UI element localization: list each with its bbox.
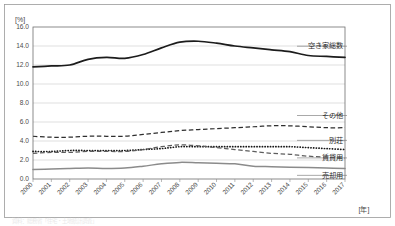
x-tick-label: 2006 — [129, 180, 144, 195]
x-axis-tick-labels: 2000200120022003200420052006200720082009… — [19, 179, 346, 196]
x-tick-label: 2013 — [257, 180, 272, 195]
chart-container: [%] 0.02.04.06.08.010.012.014.016.0 2000… — [0, 0, 395, 226]
x-tick-label: 2008 — [166, 180, 181, 195]
y-tick-label: 12.0 — [16, 61, 29, 68]
x-tick-label: 2015 — [294, 180, 309, 195]
y-axis-tick-labels: 0.02.04.06.08.010.012.014.016.0 — [16, 23, 29, 182]
y-tick-label: 8.0 — [20, 99, 29, 106]
x-tick-label: 2007 — [147, 180, 162, 195]
x-tick-label: 2012 — [239, 180, 254, 195]
series-line — [33, 41, 345, 67]
series-legend-label: その他 — [322, 111, 343, 120]
series-line — [33, 162, 345, 169]
x-tick-label: 2014 — [276, 180, 291, 195]
x-tick-label: 2004 — [92, 180, 107, 195]
vacant-house-rate-line-chart: [%] 0.02.04.06.08.010.012.014.016.0 2000… — [0, 0, 395, 226]
x-tick-label: 2011 — [221, 180, 236, 195]
y-tick-label: 2.0 — [20, 156, 29, 163]
x-tick-label: 2000 — [19, 180, 34, 195]
source-footnote: 資料：総務省「住宅・土地統計調査」 — [12, 217, 97, 225]
gridlines — [33, 46, 345, 160]
series-legend-label: 別荘 — [329, 136, 343, 145]
x-axis-unit-label: [年] — [359, 205, 370, 214]
x-tick-label: 2003 — [74, 180, 89, 195]
y-tick-label: 6.0 — [20, 118, 29, 125]
x-tick-label: 2010 — [202, 180, 217, 195]
series-line — [33, 147, 345, 152]
series-legend-label: 空き家総数 — [308, 41, 343, 50]
series-line — [33, 126, 345, 138]
series-legend-label: 賃貸用 — [322, 153, 343, 162]
x-tick-label: 2009 — [184, 180, 199, 195]
x-tick-label: 2005 — [110, 180, 125, 195]
x-tick-label: 2016 — [312, 180, 327, 195]
x-tick-label: 2001 — [37, 180, 52, 195]
y-tick-label: 14.0 — [16, 42, 29, 49]
y-tick-label: 16.0 — [16, 23, 29, 30]
series-legend-label: 売却用 — [322, 171, 343, 180]
x-tick-label: 2017 — [331, 180, 346, 195]
y-tick-label: 4.0 — [20, 137, 29, 144]
y-tick-label: 10.0 — [16, 80, 29, 87]
x-tick-label: 2002 — [55, 180, 70, 195]
legend: 空き家総数その他別荘賃貸用売却用 — [297, 41, 347, 179]
data-series-group — [33, 41, 345, 169]
